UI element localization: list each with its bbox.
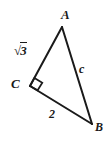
geometry-figure: A B C c 2 √3 xyxy=(0,0,110,141)
radicand-value: 3 xyxy=(20,42,27,58)
vertex-label-b: B xyxy=(95,121,103,133)
vertex-label-c: C xyxy=(11,77,20,90)
triangle-drawing xyxy=(0,0,110,141)
right-angle-marker xyxy=(30,78,42,90)
vertex-label-a: A xyxy=(61,8,70,21)
side-label-base-2: 2 xyxy=(49,108,55,120)
side-label-hypotenuse-c: c xyxy=(79,63,84,75)
side-label-sqrt3: √3 xyxy=(14,44,27,57)
